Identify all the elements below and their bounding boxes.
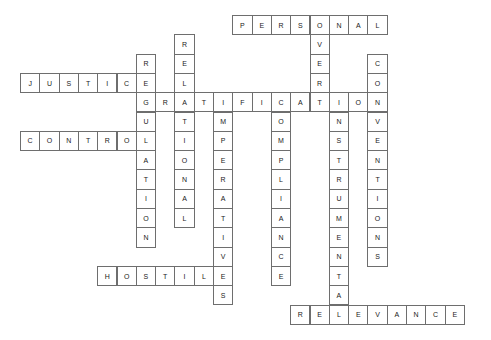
crossword-cell[interactable]: E	[252, 15, 272, 35]
crossword-cell[interactable]: C	[20, 131, 40, 151]
crossword-cell[interactable]: O	[271, 112, 291, 132]
crossword-cell[interactable]: N	[367, 150, 387, 170]
crossword-cell[interactable]: S	[136, 266, 156, 286]
crossword-cell[interactable]: R	[174, 34, 194, 54]
crossword-cell[interactable]: I	[174, 131, 194, 151]
crossword-cell[interactable]: I	[213, 227, 233, 247]
crossword-cell[interactable]: O	[39, 131, 59, 151]
crossword-cell[interactable]: M	[213, 112, 233, 132]
crossword-cell[interactable]: C	[117, 73, 137, 93]
crossword-cell[interactable]: J	[20, 73, 40, 93]
crossword-cell[interactable]: A	[271, 208, 291, 228]
crossword-cell[interactable]: V	[310, 34, 330, 54]
crossword-cell[interactable]: S	[367, 247, 387, 267]
crossword-cell[interactable]: T	[78, 73, 98, 93]
crossword-cell[interactable]: I	[329, 92, 349, 112]
crossword-cell[interactable]: E	[174, 54, 194, 74]
crossword-cell[interactable]: C	[425, 305, 445, 325]
crossword-cell[interactable]: N	[136, 227, 156, 247]
crossword-cell[interactable]: E	[213, 266, 233, 286]
crossword-cell[interactable]: R	[97, 131, 117, 151]
crossword-cell[interactable]: O	[367, 208, 387, 228]
crossword-cell[interactable]: P	[232, 15, 252, 35]
crossword-cell[interactable]: T	[367, 169, 387, 189]
crossword-cell[interactable]: S	[290, 15, 310, 35]
crossword-cell[interactable]: U	[329, 189, 349, 209]
crossword-cell[interactable]: L	[136, 131, 156, 151]
crossword-cell[interactable]: N	[59, 131, 79, 151]
crossword-cell[interactable]: E	[310, 54, 330, 74]
crossword-cell[interactable]: P	[213, 131, 233, 151]
crossword-cell[interactable]: S	[213, 285, 233, 305]
crossword-cell[interactable]: A	[213, 189, 233, 209]
crossword-cell[interactable]: L	[194, 266, 214, 286]
crossword-cell[interactable]: O	[136, 208, 156, 228]
crossword-cell[interactable]: O	[348, 92, 368, 112]
crossword-cell[interactable]: I	[213, 92, 233, 112]
crossword-cell[interactable]: E	[445, 305, 465, 325]
crossword-cell[interactable]: I	[136, 189, 156, 209]
crossword-cell[interactable]: N	[329, 112, 349, 132]
crossword-cell[interactable]: C	[271, 92, 291, 112]
crossword-cell[interactable]: E	[271, 266, 291, 286]
crossword-cell[interactable]: T	[329, 266, 349, 286]
crossword-cell[interactable]: U	[136, 112, 156, 132]
crossword-cell[interactable]: L	[329, 305, 349, 325]
crossword-cell[interactable]: T	[310, 92, 330, 112]
crossword-cell[interactable]: L	[174, 73, 194, 93]
crossword-cell[interactable]: V	[367, 305, 387, 325]
crossword-cell[interactable]: T	[136, 169, 156, 189]
crossword-cell[interactable]: C	[271, 247, 291, 267]
crossword-cell[interactable]: V	[213, 247, 233, 267]
crossword-cell[interactable]: E	[310, 305, 330, 325]
crossword-cell[interactable]: R	[329, 169, 349, 189]
crossword-cell[interactable]: R	[213, 169, 233, 189]
crossword-cell[interactable]: T	[78, 131, 98, 151]
crossword-cell[interactable]: N	[271, 227, 291, 247]
crossword-cell[interactable]: O	[367, 73, 387, 93]
crossword-cell[interactable]: A	[174, 92, 194, 112]
crossword-cell[interactable]: I	[97, 73, 117, 93]
crossword-cell[interactable]: U	[39, 73, 59, 93]
crossword-cell[interactable]: O	[174, 150, 194, 170]
crossword-cell[interactable]: N	[174, 169, 194, 189]
crossword-cell[interactable]: O	[310, 15, 330, 35]
crossword-cell[interactable]: N	[367, 227, 387, 247]
crossword-cell[interactable]: V	[367, 112, 387, 132]
crossword-cell[interactable]: M	[329, 208, 349, 228]
crossword-cell[interactable]: S	[329, 131, 349, 151]
crossword-cell[interactable]: C	[367, 54, 387, 74]
crossword-cell[interactable]: M	[271, 131, 291, 151]
crossword-cell[interactable]: A	[136, 150, 156, 170]
crossword-cell[interactable]: I	[271, 189, 291, 209]
crossword-cell[interactable]: E	[367, 131, 387, 151]
crossword-cell[interactable]: T	[213, 208, 233, 228]
crossword-cell[interactable]: F	[232, 92, 252, 112]
crossword-cell[interactable]: A	[348, 15, 368, 35]
crossword-cell[interactable]: L	[367, 15, 387, 35]
crossword-cell[interactable]: O	[117, 131, 137, 151]
crossword-cell[interactable]: R	[310, 73, 330, 93]
crossword-cell[interactable]: S	[59, 73, 79, 93]
crossword-cell[interactable]: T	[194, 92, 214, 112]
crossword-cell[interactable]: I	[252, 92, 272, 112]
crossword-cell[interactable]: P	[271, 150, 291, 170]
crossword-cell[interactable]: A	[290, 92, 310, 112]
crossword-cell[interactable]: L	[174, 208, 194, 228]
crossword-cell[interactable]: A	[387, 305, 407, 325]
crossword-cell[interactable]: R	[271, 15, 291, 35]
crossword-cell[interactable]: N	[367, 92, 387, 112]
crossword-cell[interactable]: I	[367, 189, 387, 209]
crossword-cell[interactable]: A	[329, 285, 349, 305]
crossword-cell[interactable]: T	[174, 112, 194, 132]
crossword-cell[interactable]: H	[97, 266, 117, 286]
crossword-cell[interactable]: E	[329, 227, 349, 247]
crossword-cell[interactable]: L	[271, 169, 291, 189]
crossword-cell[interactable]: O	[117, 266, 137, 286]
crossword-cell[interactable]: A	[174, 189, 194, 209]
crossword-cell[interactable]: T	[329, 150, 349, 170]
crossword-cell[interactable]: G	[136, 92, 156, 112]
crossword-cell[interactable]: R	[136, 54, 156, 74]
crossword-cell[interactable]: E	[213, 150, 233, 170]
crossword-cell[interactable]: T	[155, 266, 175, 286]
